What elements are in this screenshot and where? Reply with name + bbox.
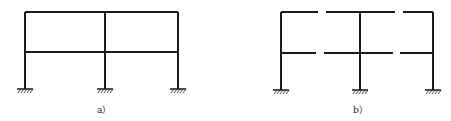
frame-diagram: [0, 0, 451, 121]
caption-a: a）: [97, 103, 111, 116]
caption-b: b）: [353, 103, 368, 116]
